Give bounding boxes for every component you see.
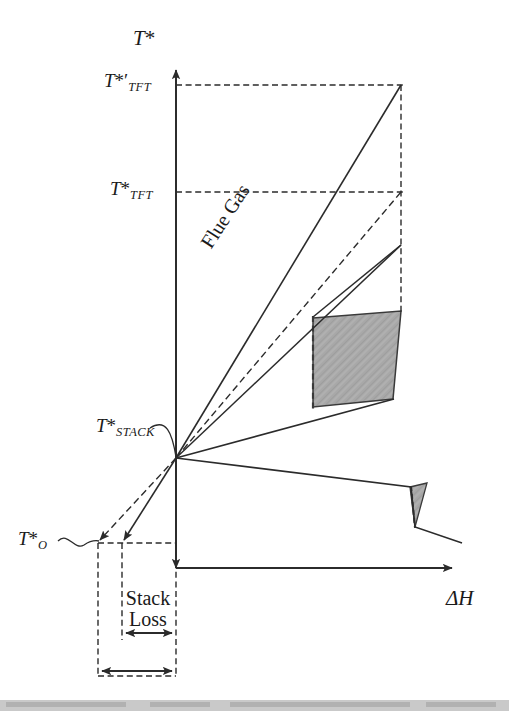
y-axis-label: T* — [133, 26, 155, 51]
stack-loss-label-line1: Stack — [121, 588, 175, 609]
label-tft-prime: T*′TFT — [104, 70, 151, 95]
thermal-diagram-figure — [0, 0, 509, 711]
stack-loss-dashed-line — [100, 458, 176, 540]
stack-loss-label: Stack Loss — [121, 588, 175, 629]
page-footer-strip — [0, 700, 509, 711]
label-t-stack: T*STACK — [96, 415, 155, 440]
to-label-leader-line — [58, 538, 99, 546]
stack-loss-label-line2: Loss — [121, 609, 175, 630]
x-axis-label: ΔH — [446, 586, 474, 611]
label-t-o: T*O — [18, 528, 48, 553]
label-tft: T*TFT — [110, 178, 153, 203]
stack-loss-solid-line — [124, 458, 176, 540]
lower-process-line — [176, 399, 394, 458]
shaded-region-main — [313, 311, 401, 407]
